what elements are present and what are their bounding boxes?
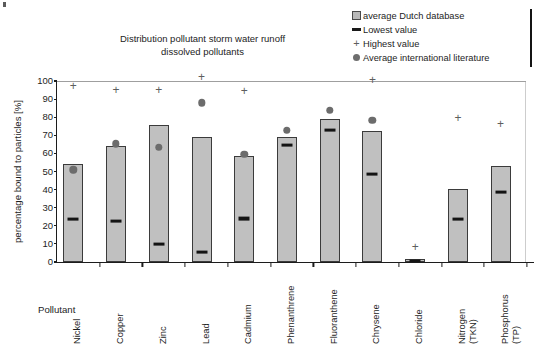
bar-group: + — [448, 81, 468, 262]
y-tick-label: 100 — [23, 75, 57, 86]
lowest-value-marker — [68, 218, 79, 221]
bar-group: + — [149, 81, 169, 262]
x-tick-label: Lead — [201, 270, 212, 344]
legend-item-average-international-literature: Average international literature — [350, 51, 532, 64]
x-tick-label: Fluoranthene — [329, 270, 340, 344]
highest-value-marker: + — [155, 84, 162, 96]
legend-item-average-dutch-database: average Dutch database — [350, 9, 532, 22]
bar — [491, 166, 511, 262]
legend-border-rule — [530, 9, 532, 67]
bar-group — [277, 81, 297, 262]
bar-group: + — [63, 81, 83, 262]
legend-plus-icon: + — [350, 39, 363, 48]
y-tick-label: 20 — [23, 220, 57, 231]
bar — [448, 189, 468, 262]
bar-group: + — [192, 81, 212, 262]
x-axis-labels: NickelCopperZincLeadCadmiumPhenanthreneF… — [56, 268, 526, 344]
highest-value-marker: + — [113, 84, 120, 96]
bar — [106, 146, 126, 262]
bar — [362, 131, 382, 262]
y-tick-label: 60 — [23, 147, 57, 158]
bar-group: + — [106, 81, 126, 262]
lowest-value-marker — [367, 173, 378, 176]
lowest-value-marker — [196, 250, 207, 253]
legend-item-highest-value: + Highest value — [350, 37, 532, 50]
scan-artifact-speck — [3, 2, 6, 7]
plot-area: 0102030405060708090100 +++++++++ — [56, 81, 526, 262]
x-tick-label: Phosphorus (TP) — [500, 270, 521, 344]
bar-group: + — [362, 81, 382, 262]
literature-average-marker — [369, 116, 376, 123]
y-tick-label: 30 — [23, 202, 57, 213]
literature-average-marker — [283, 126, 290, 133]
highest-value-marker: + — [369, 74, 376, 86]
x-axis-line — [56, 262, 534, 263]
bar — [234, 156, 254, 262]
bar-group: + — [405, 81, 425, 262]
highest-value-marker: + — [241, 85, 248, 97]
chart-title: Distribution pollutant storm water runof… — [60, 33, 345, 58]
bar-group: + — [234, 81, 254, 262]
literature-average-marker — [326, 106, 333, 113]
bar — [320, 119, 340, 262]
chart-title-line-2: dissolved pollutants — [60, 46, 345, 59]
x-axis-title: Pollutant — [38, 304, 75, 315]
legend-label-0: average Dutch database — [363, 11, 464, 21]
bar-group: + — [491, 81, 511, 262]
y-tick-label: 90 — [23, 93, 57, 104]
lowest-value-marker — [324, 128, 335, 131]
lowest-value-marker — [495, 191, 506, 194]
legend-label-3: Average international literature — [363, 53, 489, 63]
y-tick-label: 50 — [23, 166, 57, 177]
legend-box-icon — [350, 11, 363, 20]
chart-legend: average Dutch database Lowest value + Hi… — [350, 9, 532, 67]
bar — [277, 137, 297, 262]
legend-label-2: Highest value — [363, 39, 419, 49]
highest-value-marker: + — [412, 241, 419, 253]
highest-value-marker: + — [454, 112, 461, 124]
chart-figure: Distribution pollutant storm water runof… — [0, 0, 542, 344]
x-tick-label: Chloride — [414, 270, 425, 344]
y-tick-label: 0 — [23, 256, 57, 267]
y-axis-title: percentage bound to particles [%] — [10, 81, 24, 262]
lowest-value-marker — [153, 242, 164, 245]
lowest-value-marker — [239, 217, 250, 220]
literature-average-marker — [198, 99, 205, 106]
lowest-value-marker — [452, 218, 463, 221]
x-tick-label: Chrysene — [371, 270, 382, 344]
lowest-value-marker — [111, 220, 122, 223]
chart-title-line-1: Distribution pollutant storm water runof… — [60, 33, 345, 46]
bar — [63, 164, 83, 262]
x-tick-label: Phenanthrene — [286, 270, 297, 344]
lowest-value-marker — [282, 144, 293, 147]
bar-series-layer: +++++++++ — [57, 81, 526, 262]
x-tick-label: Nitrogen (TKN) — [457, 270, 478, 344]
legend-label-1: Lowest value — [363, 25, 417, 35]
x-tick-label: Zinc — [158, 270, 169, 344]
legend-dot-icon — [350, 54, 363, 61]
x-tick-label: Cadmium — [243, 270, 254, 344]
y-tick-label: 10 — [23, 238, 57, 249]
y-tick-label: 40 — [23, 184, 57, 195]
legend-dash-icon — [350, 28, 363, 30]
highest-value-marker: + — [70, 80, 77, 92]
x-tick-label: Copper — [115, 270, 126, 344]
y-tick-label: 70 — [23, 129, 57, 140]
legend-item-lowest-value: Lowest value — [350, 23, 532, 36]
y-tick-label: 80 — [23, 111, 57, 122]
highest-value-marker: + — [198, 71, 205, 83]
highest-value-marker: + — [497, 118, 504, 130]
bar — [192, 137, 212, 262]
bar-group — [320, 81, 340, 262]
